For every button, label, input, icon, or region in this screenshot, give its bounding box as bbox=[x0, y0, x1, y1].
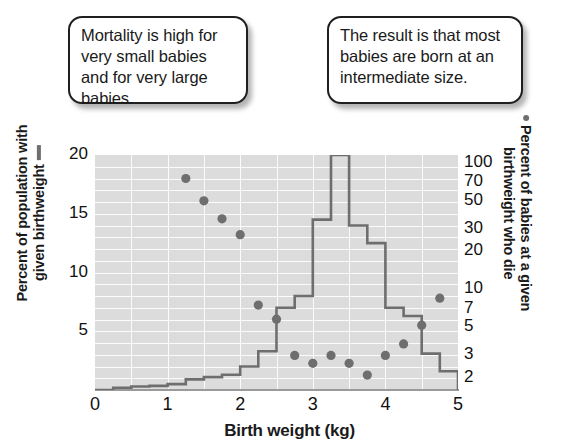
histogram-line bbox=[95, 155, 458, 390]
x-axis-title: Birth weight (kg) bbox=[0, 421, 579, 441]
x-axis-tick: 3 bbox=[300, 394, 326, 415]
y-axis-right-tick: 30 bbox=[464, 218, 483, 238]
callout-result: The result is that most babies are born … bbox=[327, 16, 523, 104]
y-axis-right-tick: 7 bbox=[464, 298, 473, 318]
x-axis-tick: 2 bbox=[227, 394, 253, 415]
x-axis-tick: 4 bbox=[372, 394, 398, 415]
x-axis-tick: 1 bbox=[155, 394, 181, 415]
figure: Mortality is high for very small babies … bbox=[0, 0, 579, 447]
scatter-point bbox=[181, 174, 190, 183]
y-axis-right-tick: 50 bbox=[464, 190, 483, 210]
y-axis-right-tick: 70 bbox=[464, 171, 483, 191]
scatter-point bbox=[417, 321, 426, 330]
y-axis-right-tick: 20 bbox=[464, 240, 483, 260]
scatter-point bbox=[399, 339, 408, 348]
scatter-point bbox=[345, 359, 354, 368]
chart-series-layer bbox=[95, 155, 458, 390]
scatter-point bbox=[381, 351, 390, 360]
y-axis-left-title-line1: Percent of population with bbox=[14, 108, 31, 318]
x-axis-tick: 0 bbox=[82, 394, 108, 415]
y-axis-left-tick: 10 bbox=[54, 262, 88, 282]
y-axis-right-tick: 100 bbox=[464, 152, 492, 172]
y-axis-left-title-line2-wrap: given birthweight bbox=[31, 108, 48, 318]
y-axis-right-title: Percent of babies at a given birthweight… bbox=[500, 108, 534, 318]
y-axis-left-tick: 20 bbox=[54, 144, 88, 164]
y-axis-right-title-line1: Percent of babies at a given bbox=[518, 125, 534, 311]
scatter-point bbox=[236, 230, 245, 239]
scatter-point bbox=[254, 301, 263, 310]
scatter-point bbox=[199, 196, 208, 205]
y-axis-right-title-line1-wrap: Percent of babies at a given bbox=[517, 108, 534, 318]
scatter-point bbox=[217, 214, 226, 223]
y-axis-left-tick: 15 bbox=[54, 203, 88, 223]
callout-result-text: The result is that most babies are born … bbox=[340, 25, 511, 88]
scatter-point bbox=[363, 371, 372, 380]
line-series-key-icon bbox=[37, 145, 41, 160]
scatter-point bbox=[308, 359, 317, 368]
callout-mortality-text: Mortality is high for very small babies … bbox=[81, 25, 236, 109]
scatter-point bbox=[290, 351, 299, 360]
scatter-point bbox=[326, 351, 335, 360]
y-axis-right-tick: 5 bbox=[464, 316, 473, 336]
y-axis-right-tick: 10 bbox=[464, 278, 483, 298]
y-axis-left-title-line2: given birthweight bbox=[31, 164, 47, 281]
callout-mortality: Mortality is high for very small babies … bbox=[68, 16, 248, 104]
scatter-point bbox=[435, 294, 444, 303]
y-axis-left-tick: 5 bbox=[54, 320, 88, 340]
x-axis-tick: 5 bbox=[445, 394, 471, 415]
y-axis-right-title-line2: birthweight who die bbox=[500, 108, 517, 318]
scatter-point bbox=[272, 315, 281, 324]
y-axis-right-tick: 2 bbox=[464, 367, 473, 387]
scatter-series-key-icon bbox=[523, 115, 529, 121]
y-axis-right-tick: 3 bbox=[464, 344, 473, 364]
y-axis-left-title: Percent of population with given birthwe… bbox=[14, 108, 48, 318]
